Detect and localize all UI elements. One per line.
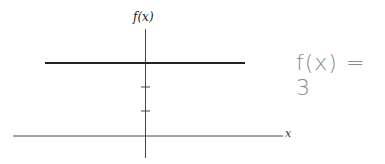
y-axis-label: f(x) bbox=[133, 10, 154, 24]
handwritten-annotation: f(x) = 3 bbox=[296, 50, 385, 100]
x-axis-label: x bbox=[285, 127, 291, 140]
